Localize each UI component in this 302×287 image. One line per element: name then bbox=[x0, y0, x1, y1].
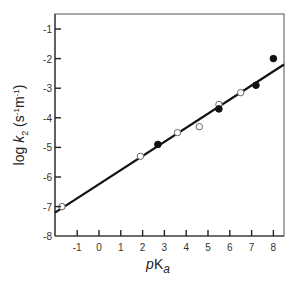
y-tick-label: -7 bbox=[43, 202, 52, 213]
y-axis-title: log k2 (s-1m-1) bbox=[11, 85, 30, 166]
filled-circle-point bbox=[270, 55, 277, 62]
chart: -1012345678 -1-2-3-4-5-6-7-8 pKa log k2 … bbox=[0, 0, 302, 287]
filled-circle-point bbox=[155, 141, 162, 148]
x-tick-label: -1 bbox=[73, 242, 82, 253]
plot-frame bbox=[55, 14, 284, 236]
x-tick-label: 5 bbox=[205, 242, 211, 253]
y-tick-label: -1 bbox=[43, 24, 52, 35]
x-tick-label: 7 bbox=[249, 242, 255, 253]
x-tick-label: 6 bbox=[227, 242, 233, 253]
filled-circle-point bbox=[216, 106, 223, 113]
open-circle-point bbox=[174, 129, 180, 135]
x-tick-label: 4 bbox=[183, 242, 189, 253]
filled-circle-point bbox=[253, 82, 260, 89]
open-circle-point bbox=[196, 123, 202, 129]
y-tick-label: -5 bbox=[43, 142, 52, 153]
y-tick-label: -2 bbox=[43, 54, 52, 65]
x-axis-ticks: -1012345678 bbox=[73, 230, 277, 253]
open-circle-point bbox=[238, 89, 244, 95]
y-tick-label: -4 bbox=[43, 113, 52, 124]
y-tick-label: -8 bbox=[43, 231, 52, 242]
fit-line bbox=[55, 65, 284, 213]
x-tick-label: 0 bbox=[96, 242, 102, 253]
x-tick-label: 8 bbox=[271, 242, 277, 253]
x-tick-label: 3 bbox=[162, 242, 168, 253]
open-circle-point bbox=[137, 153, 143, 159]
x-tick-label: 2 bbox=[140, 242, 146, 253]
x-axis-title: pKa bbox=[145, 256, 170, 276]
y-tick-label: -6 bbox=[43, 172, 52, 183]
data-points bbox=[59, 55, 277, 210]
x-tick-label: 1 bbox=[118, 242, 124, 253]
y-tick-label: -3 bbox=[43, 83, 52, 94]
